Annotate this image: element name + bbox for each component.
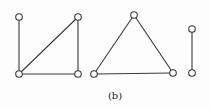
graph-node (189, 26, 196, 33)
graph-left (16, 14, 82, 78)
graph-edge (189, 26, 196, 77)
graph-node (131, 12, 138, 19)
graph-node (189, 70, 196, 77)
graph-edge (94, 73, 173, 74)
graph-edge (19, 17, 78, 74)
figure-caption: (b) (100, 90, 130, 101)
figure: (b) (0, 0, 210, 108)
graph-node (16, 71, 23, 78)
graph-node (170, 70, 177, 77)
graph-node (75, 14, 82, 21)
graph-node (16, 14, 23, 21)
graph-edge (134, 15, 173, 73)
graph-node (91, 71, 98, 78)
graph-triangle (91, 12, 177, 78)
graph-edge (94, 15, 134, 74)
graph-node (75, 71, 82, 78)
